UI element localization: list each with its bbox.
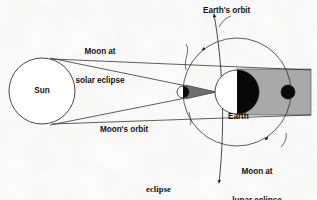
moon-at-solar-eclipse-label: Moon at solar eclipse <box>60 28 140 105</box>
moon-lunar-line1: Moon at <box>217 167 297 177</box>
moon-umbra-cone <box>186 85 216 99</box>
moon-at-solar-eclipse-body <box>177 86 189 98</box>
moon-solar-line1: Moon at <box>60 47 140 57</box>
earths-orbit-label: Earth's orbit <box>203 6 250 16</box>
sun-label: Sun <box>22 86 62 96</box>
eclipse-diagram-page: Moon at solar eclipse Earth's orbit Moon… <box>0 0 317 200</box>
moon-solar-line2: solar eclipse <box>60 76 140 86</box>
moon-at-lunar-eclipse-body <box>281 85 295 99</box>
leader-moon-lunar <box>281 133 286 147</box>
earth-label: Earth <box>228 112 249 122</box>
earth-body <box>215 70 259 114</box>
figure-caption: eclipse <box>0 184 317 194</box>
moons-orbit-label: Moon's orbit <box>100 125 148 135</box>
moon-lunar-line2: lunar eclipse <box>217 196 297 200</box>
leader-earths-orbit <box>219 16 231 27</box>
leader-moon-solar <box>185 44 187 70</box>
